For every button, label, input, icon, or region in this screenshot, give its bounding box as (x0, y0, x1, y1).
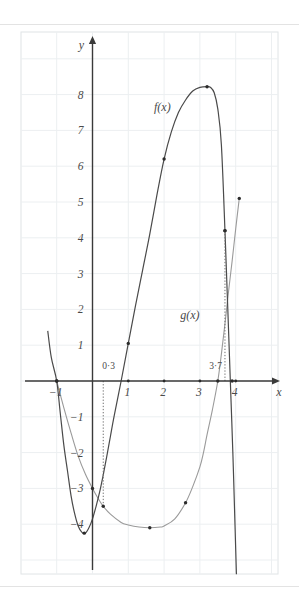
x-tick-label: 3 (195, 386, 202, 398)
y-tick-label: 5 (78, 196, 84, 208)
x-axis-label: x (275, 385, 282, 399)
data-point (55, 379, 58, 382)
data-point (205, 85, 208, 88)
x-tick-label: 1 (124, 386, 130, 398)
graph-canvas: xy−1123487654321−1−2−3−4f(x)g(x)0·33·7 (0, 26, 299, 582)
marker-label-right: 3·7 (209, 361, 222, 371)
x-tick-mark (163, 380, 166, 383)
marker-label-left: 0·3 (102, 361, 115, 371)
data-point (127, 342, 130, 345)
y-axis-label: y (78, 38, 85, 52)
data-point (216, 379, 219, 382)
x-tick-mark (127, 380, 130, 383)
x-tick-mark (199, 380, 202, 383)
plot-frame (21, 32, 278, 574)
y-tick-label: −1 (70, 411, 84, 423)
page-root: xy−1123487654321−1−2−3−4f(x)g(x)0·33·7 (0, 0, 299, 598)
curve-label-f: f(x) (154, 100, 171, 114)
y-tick-label: −4 (70, 518, 84, 530)
y-tick-label: −2 (70, 447, 84, 459)
x-tick-label: −1 (49, 386, 63, 398)
y-tick-label: 1 (78, 339, 84, 351)
y-tick-label: 3 (77, 268, 84, 280)
y-tick-label: 4 (78, 232, 84, 244)
data-point (83, 531, 86, 534)
divider-top (0, 24, 299, 25)
data-point (162, 157, 165, 160)
data-point (238, 197, 241, 200)
divider-bottom (0, 586, 299, 587)
curve-label-g: g(x) (180, 308, 199, 322)
data-point (184, 501, 187, 504)
data-point (91, 487, 94, 490)
data-point (223, 229, 226, 232)
x-tick-label: 2 (160, 386, 166, 398)
data-point (230, 379, 233, 382)
data-point (148, 526, 151, 529)
y-tick-label: −3 (70, 482, 84, 494)
x-tick-mark (234, 380, 237, 383)
x-tick-label: 4 (232, 386, 238, 398)
y-tick-label: 2 (78, 303, 84, 315)
y-tick-label: 8 (78, 89, 84, 101)
data-point (102, 505, 105, 508)
function-graph-figure: xy−1123487654321−1−2−3−4f(x)g(x)0·33·7 (0, 26, 299, 582)
y-tick-label: 6 (78, 160, 84, 172)
